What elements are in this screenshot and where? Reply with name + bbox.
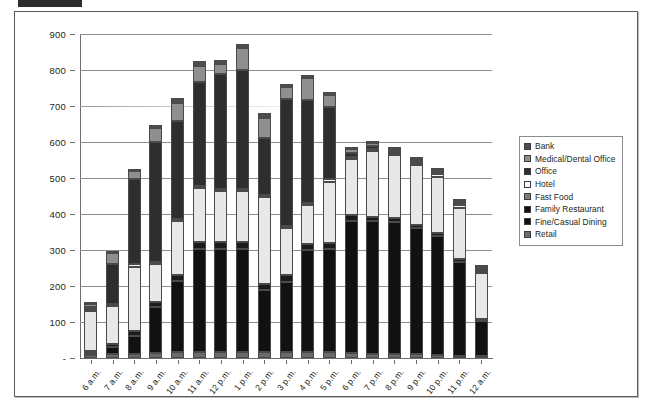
bar-segment (214, 249, 227, 353)
legend-item[interactable]: Family Restaurant (524, 203, 618, 216)
bar-segment (149, 353, 162, 358)
y-tick-mark-500 (70, 178, 75, 179)
y-tick-mark-200 (70, 286, 75, 287)
bar-column[interactable] (453, 199, 466, 358)
legend-item-label: Family Restaurant (535, 204, 604, 214)
bar-segment (149, 264, 162, 301)
bar-segment (475, 321, 488, 356)
bar-segment (128, 179, 141, 265)
bar-segment (214, 64, 227, 75)
x-tick-mark (113, 360, 114, 364)
bar-segment (453, 262, 466, 356)
bar-segment (149, 142, 162, 262)
bar-segment (323, 107, 336, 179)
bar-column[interactable] (214, 60, 227, 358)
bar-segment (345, 353, 358, 358)
bar-column[interactable] (431, 168, 444, 358)
x-tick-label: 12 p.m. (207, 367, 233, 396)
bar-segment (301, 250, 314, 352)
y-tick-label-400: 400 (50, 209, 66, 220)
bar-column[interactable] (366, 141, 379, 358)
bar-segment (193, 352, 206, 358)
bar-column[interactable] (410, 157, 423, 358)
bar-segment (345, 159, 358, 215)
x-tick-label: 8 p.m. (383, 367, 406, 392)
x-tick-label: 10 a.m. (163, 367, 189, 396)
bar-column[interactable] (84, 302, 97, 358)
bar-segment (366, 151, 379, 217)
bar-column[interactable] (193, 61, 206, 358)
bar-segment (431, 355, 444, 358)
bar-segment (236, 191, 249, 242)
bar-segment (280, 99, 293, 226)
bar-segment (366, 354, 379, 358)
bar-column[interactable] (258, 113, 271, 358)
x-tick-mark (264, 360, 265, 364)
bar-segment (236, 352, 249, 358)
x-tick-mark (459, 360, 460, 364)
x-tick-label: 8 a.m. (123, 367, 146, 392)
bar-column[interactable] (280, 84, 293, 358)
legend-item[interactable]: Bank (524, 140, 618, 153)
x-tick-mark (481, 360, 482, 364)
legend-item[interactable]: Hotel (524, 178, 618, 191)
x-tick-mark (286, 360, 287, 364)
bar-column[interactable] (475, 265, 488, 358)
y-tick-label-0: - (63, 353, 66, 364)
legend-item[interactable]: Office (524, 165, 618, 178)
legend-item[interactable]: Fast Food (524, 190, 618, 203)
x-axis-line (80, 358, 493, 359)
bar-segment (171, 352, 184, 358)
bar-segment (280, 87, 293, 99)
x-tick-mark (351, 360, 352, 364)
x-tick-label: 3 p.m. (275, 367, 298, 392)
bar-segment (323, 182, 336, 243)
x-tick-mark (329, 360, 330, 364)
legend-item-label: Medical/Dental Office (535, 154, 616, 164)
bar-segment (388, 222, 401, 354)
bar-segment (128, 267, 141, 332)
bar-column[interactable] (106, 251, 119, 358)
bar-segment (475, 356, 488, 358)
bar-segment (258, 352, 271, 358)
bar-segment (236, 249, 249, 353)
x-tick-mark (178, 360, 179, 364)
legend-item[interactable]: Medical/Dental Office (524, 153, 618, 166)
bar-segment (106, 347, 119, 355)
legend-item[interactable]: Retail (524, 228, 618, 241)
bar-segment (236, 48, 249, 70)
bar-column[interactable] (171, 98, 184, 358)
y-tick-mark-800 (70, 70, 75, 71)
bar-column[interactable] (236, 44, 249, 358)
bar-column[interactable] (388, 147, 401, 358)
bar-column[interactable] (149, 125, 162, 358)
x-tick-mark (243, 360, 244, 364)
bar-segment (171, 121, 184, 219)
chart-legend: BankMedical/Dental OfficeOfficeHotelFast… (519, 136, 623, 246)
bar-segment (84, 311, 97, 351)
legend-item[interactable]: Fine/Casual Dining (524, 216, 618, 229)
bar-segment (106, 306, 119, 343)
legend-swatch-icon (524, 206, 531, 213)
bar-segment (171, 221, 184, 275)
bar-segment (280, 352, 293, 358)
y-tick-label-100: 100 (50, 317, 66, 328)
legend-item-label: Fast Food (535, 192, 573, 202)
bar-column[interactable] (301, 75, 314, 358)
bar-column[interactable] (323, 92, 336, 358)
y-tick-mark-900 (70, 34, 75, 35)
bar-column[interactable] (128, 169, 141, 358)
y-tick-label-800: 800 (50, 65, 66, 76)
x-tick-label: 2 p.m. (253, 367, 276, 392)
legend-swatch-icon (524, 218, 531, 225)
bar-segment (323, 95, 336, 108)
x-tick-mark (91, 360, 92, 364)
x-tick-label: 1 p.m. (232, 367, 255, 392)
bar-segment (106, 253, 119, 265)
y-tick-label-900: 900 (50, 29, 66, 40)
x-tick-label: 11 a.m. (186, 367, 212, 396)
bar-column[interactable] (345, 147, 358, 358)
x-tick-mark (221, 360, 222, 364)
y-axis-tick-labels: -100200300400500600700800900 (44, 34, 74, 358)
bar-segment (431, 236, 444, 355)
